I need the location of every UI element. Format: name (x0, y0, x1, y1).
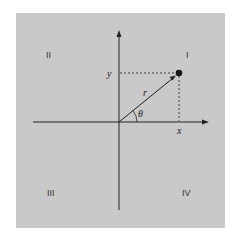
angle-theta-label: θ (138, 108, 143, 119)
quadrant-label-IV: IV (182, 188, 191, 198)
point-marker (176, 70, 183, 77)
vector-r-label: r (143, 87, 147, 98)
x-coordinate-label: x (176, 125, 182, 136)
quadrant-label-I: I (186, 50, 189, 60)
quadrant-label-II: II (46, 50, 51, 60)
y-coordinate-label: y (106, 68, 112, 79)
quadrant-label-III: III (47, 188, 55, 198)
polar-coordinate-diagram: II I III IV y x r θ (0, 0, 235, 237)
